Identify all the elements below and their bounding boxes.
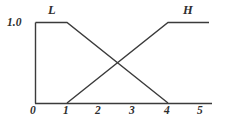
- x-tick-label-4: 4: [164, 105, 170, 117]
- series-line-low: [36, 23, 169, 104]
- series-label-low: L: [48, 4, 56, 17]
- x-tick-label-0: 0: [30, 105, 36, 117]
- x-tick-label-3: 3: [129, 105, 135, 117]
- membership-function-chart: 1.0 L H 0 1 2 3 4 5: [0, 0, 226, 121]
- x-tick-label-2: 2: [95, 105, 101, 117]
- x-tick-label-1: 1: [63, 105, 69, 117]
- x-tick-label-5: 5: [197, 105, 203, 117]
- y-tick-label-1-0: 1.0: [7, 17, 21, 29]
- series-line-high: [67, 23, 209, 104]
- series-label-high: H: [183, 4, 193, 17]
- plot-area: [0, 0, 226, 121]
